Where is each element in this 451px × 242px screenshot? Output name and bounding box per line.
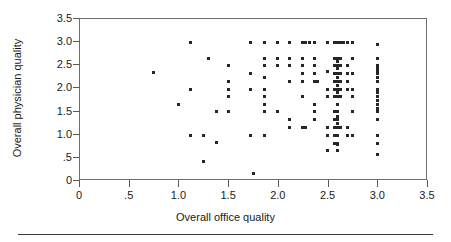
- x-axis-tick: [228, 180, 229, 187]
- y-axis-tick: [73, 87, 80, 88]
- x-axis-tick-label: 2.5: [308, 190, 348, 201]
- x-axis-tick: [427, 180, 428, 187]
- y-axis-tick-label: 1.0: [57, 129, 72, 140]
- y-axis-tick-label: 3.0: [57, 36, 72, 47]
- x-axis-tick: [377, 180, 378, 187]
- x-axis-tick: [178, 180, 179, 187]
- y-axis-title: Overall physician quality: [11, 18, 23, 178]
- x-axis-tick-label: 0: [59, 190, 99, 201]
- x-axis-tick-label: 3.5: [407, 190, 447, 201]
- y-axis-tick-label: 2.5: [57, 59, 72, 70]
- footer-rule: [18, 234, 433, 235]
- y-axis-tick: [73, 134, 80, 135]
- x-axis-tick-label: 1.0: [158, 190, 198, 201]
- x-axis-tick-label: 1.5: [208, 190, 248, 201]
- x-axis-tick: [129, 180, 130, 187]
- y-axis-tick: [73, 157, 80, 158]
- x-axis-tick-label: .5: [109, 190, 149, 201]
- x-axis-tick-label: 3.0: [357, 190, 397, 201]
- x-axis-title: Overall office quality: [0, 211, 451, 223]
- y-axis-tick-label: 0: [66, 175, 72, 186]
- x-axis-tick: [79, 180, 80, 187]
- y-axis-tick: [73, 111, 80, 112]
- y-axis-tick-label: .5: [63, 152, 72, 163]
- y-axis-tick-label: 3.5: [57, 13, 72, 24]
- y-axis-tick: [73, 18, 80, 19]
- y-axis-tick-label: 1.5: [57, 106, 72, 117]
- plot-area-frame: [79, 18, 427, 180]
- x-axis-tick-label: 2.0: [258, 190, 298, 201]
- y-axis-tick: [73, 41, 80, 42]
- x-axis-tick: [278, 180, 279, 187]
- x-axis-tick: [328, 180, 329, 187]
- scatter-plot-figure: 0.51.01.52.02.53.03.5 0.51.01.52.02.53.0…: [0, 0, 451, 242]
- y-axis-tick-label: 2.0: [57, 82, 72, 93]
- y-axis-tick: [73, 64, 80, 65]
